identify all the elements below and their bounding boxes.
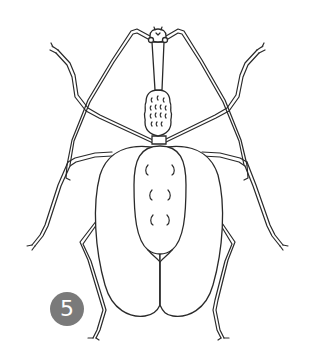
pronotum (144, 90, 171, 136)
neck (152, 42, 164, 90)
head (149, 27, 168, 43)
neck-segment (152, 136, 166, 144)
beetle-illustration (0, 0, 312, 356)
middle-right-leg (164, 43, 265, 143)
step-number-badge: 5 (50, 292, 84, 326)
badge-number: 5 (60, 298, 74, 320)
middle-left-leg (50, 43, 153, 143)
